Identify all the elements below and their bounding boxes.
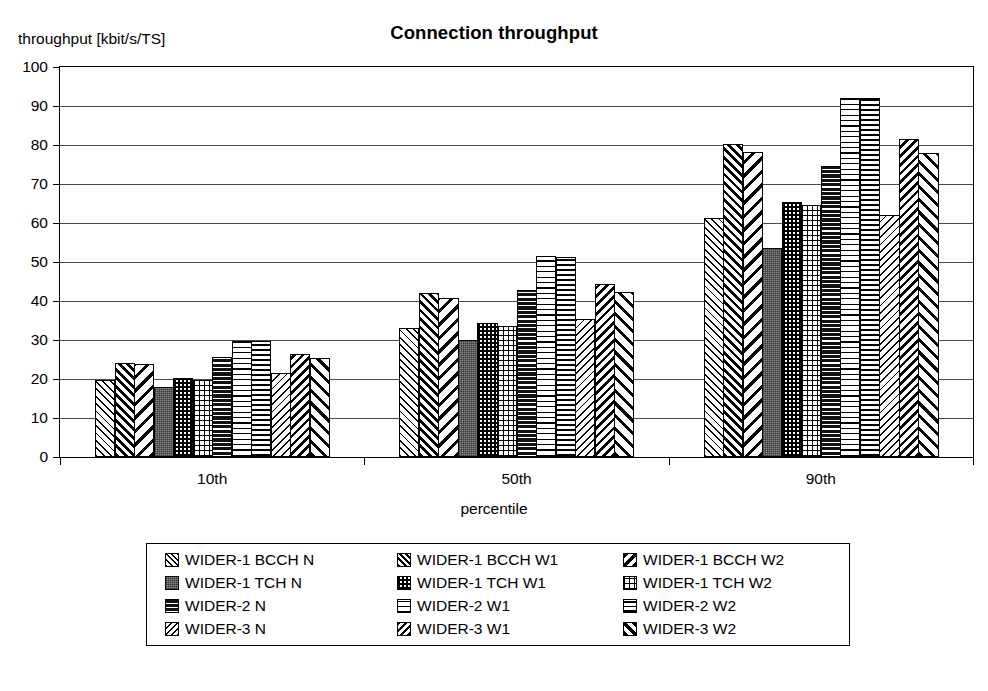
legend-label: WIDER-1 TCH W2 bbox=[643, 574, 772, 592]
legend-item: WIDER-1 TCH W1 bbox=[397, 574, 623, 592]
bar bbox=[743, 152, 763, 457]
legend-swatch-icon bbox=[397, 576, 411, 590]
legend-item: WIDER-2 N bbox=[165, 597, 397, 615]
y-tick-label: 90 bbox=[8, 97, 48, 115]
y-tick-mark bbox=[53, 418, 59, 419]
legend-swatch-icon bbox=[397, 599, 411, 613]
x-tick-label: 90th bbox=[669, 470, 973, 488]
bar bbox=[193, 380, 213, 457]
y-tick-label: 30 bbox=[8, 331, 48, 349]
legend-item: WIDER-2 W2 bbox=[623, 597, 849, 615]
legend-swatch-icon bbox=[165, 622, 179, 636]
y-tick-label: 10 bbox=[8, 409, 48, 427]
legend-label: WIDER-3 N bbox=[185, 620, 266, 638]
bar bbox=[801, 205, 821, 457]
y-tick-mark bbox=[53, 262, 59, 263]
bar bbox=[399, 328, 419, 457]
bar bbox=[595, 284, 615, 457]
legend-item: WIDER-2 W1 bbox=[397, 597, 623, 615]
y-tick-label: 50 bbox=[8, 253, 48, 271]
bar bbox=[251, 341, 271, 457]
y-tick-label: 40 bbox=[8, 292, 48, 310]
y-tick-mark bbox=[53, 106, 59, 107]
bar bbox=[310, 358, 330, 457]
legend-label: WIDER-1 BCCH N bbox=[185, 551, 314, 569]
legend-swatch-icon bbox=[397, 622, 411, 636]
bar bbox=[782, 202, 802, 457]
y-tick-label: 0 bbox=[8, 448, 48, 466]
y-tick-mark bbox=[53, 379, 59, 380]
legend-label: WIDER-2 N bbox=[185, 597, 266, 615]
bar bbox=[536, 256, 556, 457]
legend-label: WIDER-1 TCH N bbox=[185, 574, 302, 592]
bar bbox=[556, 257, 576, 457]
bar bbox=[918, 153, 938, 457]
x-tick-mark bbox=[973, 458, 974, 465]
chart-container: throughput [kbit/s/TS] Connection throug… bbox=[0, 0, 988, 691]
legend-swatch-icon bbox=[623, 576, 637, 590]
legend-swatch-icon bbox=[623, 599, 637, 613]
legend-label: WIDER-1 BCCH W1 bbox=[417, 551, 558, 569]
bar bbox=[290, 354, 310, 457]
bar bbox=[879, 215, 899, 457]
bar bbox=[517, 290, 537, 457]
legend-swatch-icon bbox=[397, 553, 411, 567]
bar bbox=[154, 387, 174, 457]
legend-item: WIDER-3 W1 bbox=[397, 620, 623, 638]
legend-item: WIDER-3 W2 bbox=[623, 620, 849, 638]
legend-item: WIDER-1 BCCH W2 bbox=[623, 551, 849, 569]
legend-label: WIDER-3 W1 bbox=[417, 620, 510, 638]
legend: WIDER-1 BCCH NWIDER-1 BCCH W1WIDER-1 BCC… bbox=[146, 543, 850, 646]
legend-item: WIDER-1 BCCH W1 bbox=[397, 551, 623, 569]
bar bbox=[232, 341, 252, 457]
bar bbox=[173, 378, 193, 457]
x-axis-title: percentile bbox=[0, 500, 988, 518]
legend-label: WIDER-2 W1 bbox=[417, 597, 510, 615]
y-tick-mark bbox=[53, 145, 59, 146]
bar bbox=[860, 98, 880, 457]
chart-title: Connection throughput bbox=[0, 22, 988, 44]
legend-label: WIDER-3 W2 bbox=[643, 620, 736, 638]
legend-label: WIDER-1 BCCH W2 bbox=[643, 551, 784, 569]
y-tick-label: 100 bbox=[8, 58, 48, 76]
bar bbox=[497, 326, 517, 457]
bar bbox=[840, 98, 860, 457]
bar bbox=[899, 139, 919, 457]
bar bbox=[575, 319, 595, 457]
bar bbox=[95, 380, 115, 457]
y-tick-mark bbox=[53, 67, 59, 68]
legend-swatch-icon bbox=[623, 622, 637, 636]
y-tick-mark bbox=[53, 457, 59, 458]
x-tick-mark bbox=[364, 458, 365, 465]
legend-item: WIDER-1 TCH N bbox=[165, 574, 397, 592]
y-tick-mark bbox=[53, 184, 59, 185]
y-tick-label: 20 bbox=[8, 370, 48, 388]
y-tick-mark bbox=[53, 301, 59, 302]
bar bbox=[419, 293, 439, 457]
x-tick-mark bbox=[669, 458, 670, 465]
y-tick-mark bbox=[53, 340, 59, 341]
legend-grid: WIDER-1 BCCH NWIDER-1 BCCH W1WIDER-1 BCC… bbox=[147, 544, 849, 645]
y-tick-label: 60 bbox=[8, 214, 48, 232]
x-tick-label: 50th bbox=[364, 470, 668, 488]
bar bbox=[614, 292, 634, 457]
bar bbox=[704, 218, 724, 457]
bar bbox=[477, 323, 497, 457]
legend-item: WIDER-3 N bbox=[165, 620, 397, 638]
legend-swatch-icon bbox=[165, 599, 179, 613]
legend-swatch-icon bbox=[165, 576, 179, 590]
y-tick-label: 80 bbox=[8, 136, 48, 154]
bar bbox=[271, 373, 291, 457]
x-tick-mark bbox=[60, 458, 61, 465]
legend-item: WIDER-1 TCH W2 bbox=[623, 574, 849, 592]
bar bbox=[723, 144, 743, 457]
bar bbox=[115, 363, 135, 457]
legend-item: WIDER-1 BCCH N bbox=[165, 551, 397, 569]
legend-label: WIDER-2 W2 bbox=[643, 597, 736, 615]
legend-label: WIDER-1 TCH W1 bbox=[417, 574, 546, 592]
legend-swatch-icon bbox=[623, 553, 637, 567]
x-tick-label: 10th bbox=[60, 470, 364, 488]
bar bbox=[762, 248, 782, 457]
legend-swatch-icon bbox=[165, 553, 179, 567]
bars-layer bbox=[60, 67, 973, 457]
